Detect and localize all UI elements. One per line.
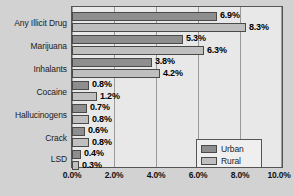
- category-label-crack: Crack: [0, 133, 67, 143]
- x-tick-label-2: 2.0%: [105, 170, 124, 180]
- bar-urban-lsd: [72, 150, 81, 159]
- bar-value-urban-hallucinogens: 0.7%: [90, 103, 110, 112]
- category-axis: Any Illicit Drug Marijuana Inhalants Coc…: [0, 6, 67, 168]
- bar-chart: Any Illicit Drug Marijuana Inhalants Coc…: [0, 0, 294, 196]
- legend-swatch-urban-icon: [201, 145, 217, 153]
- x-tick-label-8: 8.0%: [231, 170, 250, 180]
- bar-urban-hallucinogens: [72, 104, 87, 113]
- bar-value-urban-crack: 0.6%: [88, 126, 108, 135]
- bar-rural-crack: [72, 138, 89, 147]
- bar-urban-marijuana: [72, 35, 183, 44]
- legend-label-rural: Rural: [221, 156, 241, 166]
- bar-value-urban-marijuana: 5.3%: [186, 34, 206, 43]
- category-label-inhalants: Inhalants: [0, 64, 67, 74]
- bar-value-rural-cocaine: 1.2%: [100, 92, 120, 101]
- bar-rural-lsd: [72, 161, 79, 170]
- category-label-marijuana: Marijuana: [0, 41, 67, 51]
- bar-value-rural-lsd: 0.3%: [82, 161, 102, 170]
- bar-value-rural-hallucinogens: 0.8%: [92, 115, 112, 124]
- bar-value-rural-crack: 0.8%: [92, 138, 112, 147]
- bar-rural-cocaine: [72, 92, 97, 101]
- bar-rural-marijuana: [72, 46, 204, 55]
- bar-value-urban-cocaine: 0.8%: [92, 80, 112, 89]
- bar-urban-crack: [72, 127, 85, 136]
- legend-swatch-rural-icon: [201, 157, 217, 165]
- x-tick-label-4: 4.0%: [147, 170, 166, 180]
- x-tick-label-0: 0.0%: [63, 170, 82, 180]
- x-axis: 0.0% 2.0% 4.0% 6.0% 8.0% 10.0%: [71, 170, 283, 186]
- category-label-lsd: LSD: [0, 154, 67, 164]
- legend-item-rural: Rural: [201, 155, 257, 166]
- bar-urban-cocaine: [72, 81, 89, 90]
- category-label-any-illicit-drug: Any Illicit Drug: [0, 18, 67, 28]
- x-tick-label-6: 6.0%: [189, 170, 208, 180]
- bar-value-rural-marijuana: 6.3%: [207, 46, 227, 55]
- bar-urban-any-illicit-drug: [72, 12, 217, 21]
- category-label-cocaine: Cocaine: [0, 87, 67, 97]
- category-label-hallucinogens: Hallucinogens: [0, 110, 67, 120]
- bar-rural-hallucinogens: [72, 115, 89, 124]
- bar-value-urban-any-illicit-drug: 6.9%: [220, 11, 240, 20]
- legend-item-urban: Urban: [201, 143, 257, 154]
- bar-rural-any-illicit-drug: [72, 23, 246, 32]
- bar-rural-inhalants: [72, 69, 160, 78]
- bar-urban-inhalants: [72, 58, 152, 67]
- bar-value-urban-lsd: 0.4%: [84, 149, 104, 158]
- legend-label-urban: Urban: [221, 144, 244, 154]
- bar-value-urban-inhalants: 3.8%: [155, 57, 175, 66]
- bar-value-rural-inhalants: 4.2%: [163, 69, 183, 78]
- chart-legend: Urban Rural: [196, 139, 262, 168]
- x-tick-label-10: 10.0%: [267, 170, 290, 180]
- bar-value-rural-any-illicit-drug: 8.3%: [249, 23, 269, 32]
